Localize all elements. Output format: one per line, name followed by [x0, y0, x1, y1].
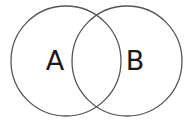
set-b-label: B: [126, 45, 145, 76]
set-a-label: A: [46, 45, 65, 76]
set-a-circle: [11, 6, 121, 116]
venn-diagram: A B: [0, 0, 190, 126]
